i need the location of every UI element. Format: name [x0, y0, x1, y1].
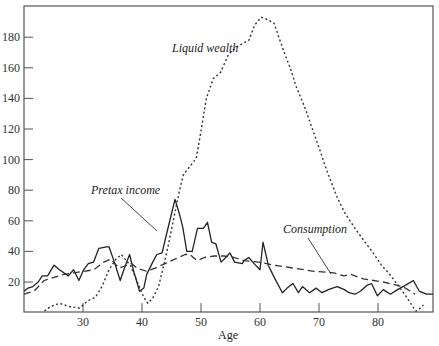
y-tick-label: 140 — [2, 91, 20, 105]
x-tick-label: 70 — [313, 315, 325, 329]
x-tick-label: 80 — [372, 315, 384, 329]
y-tick-label: 20 — [8, 275, 20, 289]
x-axis-ticks: 304050607080 — [77, 303, 384, 329]
pretax-income-label: Pretax income — [90, 183, 161, 197]
y-axis-ticks: 20406080100120140160180 — [2, 30, 33, 289]
pretax-income-leader-line — [121, 198, 157, 231]
y-tick-label: 180 — [2, 30, 20, 44]
x-tick-label: 60 — [254, 315, 266, 329]
x-tick-label: 50 — [195, 315, 207, 329]
y-axis-unit-label: Thousands of 1990 dollars — [2, 0, 119, 2]
y-tick-label: 40 — [8, 244, 20, 258]
x-tick-label: 30 — [77, 315, 89, 329]
y-tick-label: 160 — [2, 61, 20, 75]
life-cycle-chart: Thousands of 1990 dollars 20406080100120… — [0, 0, 439, 346]
consumption-label: Consumption — [283, 222, 347, 236]
liquid-wealth-label: Liquid wealth — [171, 41, 238, 55]
x-axis-title: Age — [218, 328, 238, 342]
liquid-wealth-line — [24, 17, 423, 318]
x-tick-label: 40 — [136, 315, 148, 329]
y-tick-label: 100 — [2, 153, 20, 167]
y-tick-label: 120 — [2, 122, 20, 136]
y-tick-label: 60 — [8, 214, 20, 228]
consumption-line — [24, 255, 415, 295]
y-tick-label: 80 — [8, 183, 20, 197]
consumption-leader-line — [308, 238, 331, 274]
series-lines — [24, 17, 437, 318]
